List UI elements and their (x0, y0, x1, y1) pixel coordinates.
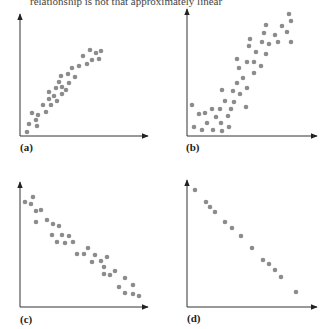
data-point (60, 233, 65, 238)
scatter-series-a (25, 48, 104, 135)
data-point (223, 220, 228, 225)
data-point (123, 291, 128, 296)
data-point (117, 285, 122, 290)
data-point (229, 107, 234, 112)
data-point (262, 31, 267, 36)
data-point (47, 97, 52, 102)
data-point (252, 71, 257, 76)
data-point (102, 272, 107, 277)
data-point (49, 103, 54, 108)
data-point (131, 292, 136, 297)
dots-layer (23, 12, 299, 299)
data-point (197, 112, 202, 117)
data-point (113, 269, 118, 274)
scatter-series-b (190, 12, 294, 134)
data-point (239, 234, 244, 239)
panel-axes-2 (20, 182, 148, 307)
data-point (93, 253, 98, 258)
data-point (45, 218, 50, 223)
data-point (287, 12, 292, 17)
data-point (241, 76, 246, 81)
data-point (77, 64, 82, 69)
scatter-series-c (23, 195, 142, 299)
data-point (205, 121, 210, 126)
data-point (280, 24, 285, 29)
data-point (108, 273, 113, 278)
data-point (34, 209, 39, 214)
data-point (211, 128, 216, 133)
data-point (279, 275, 284, 280)
data-point (192, 125, 197, 130)
data-point (31, 195, 36, 200)
data-point (218, 107, 223, 112)
data-point (248, 37, 253, 42)
data-point (71, 240, 76, 245)
scatter-figure (0, 0, 333, 329)
data-point (50, 233, 55, 238)
data-point (250, 246, 255, 251)
data-point (220, 88, 225, 93)
data-point (82, 252, 87, 257)
data-point (261, 258, 266, 263)
data-point (210, 107, 215, 112)
panel-label: (a) (20, 141, 33, 153)
axes-layer (20, 9, 317, 307)
data-point (99, 49, 104, 54)
data-point (203, 111, 208, 116)
data-point (252, 60, 257, 65)
data-point (97, 57, 102, 62)
data-point (67, 81, 72, 86)
data-point (219, 121, 224, 126)
data-point (230, 226, 235, 231)
data-point (245, 60, 250, 65)
data-point (267, 42, 272, 47)
data-point (214, 115, 219, 120)
data-point (244, 105, 249, 110)
data-point (285, 30, 290, 35)
data-point (81, 54, 86, 59)
data-point (238, 92, 243, 97)
data-point (235, 57, 240, 62)
data-point (131, 283, 136, 288)
data-point (245, 86, 250, 91)
data-point (264, 52, 269, 57)
data-point (64, 88, 69, 93)
data-point (264, 23, 269, 28)
data-point (200, 128, 205, 133)
data-point (208, 205, 213, 210)
data-point (51, 222, 56, 227)
data-point (289, 40, 294, 45)
data-point (66, 72, 71, 77)
data-point (226, 114, 231, 119)
data-point (94, 51, 99, 56)
data-point (29, 202, 34, 207)
data-point (88, 48, 93, 53)
data-point (235, 81, 240, 86)
data-point (39, 208, 44, 213)
data-point (231, 89, 236, 94)
panel-axes-0 (20, 14, 148, 136)
data-point (123, 276, 128, 281)
data-point (294, 290, 299, 295)
data-point (47, 90, 52, 95)
data-point (34, 220, 39, 225)
data-point (190, 103, 195, 108)
data-point (75, 252, 80, 257)
data-point (232, 100, 237, 105)
data-point (204, 200, 209, 205)
panel-label: (b) (186, 141, 199, 153)
data-point (85, 62, 90, 67)
scatter-series-d (193, 188, 299, 295)
panel-axes-3 (187, 180, 317, 307)
data-point (289, 19, 294, 24)
panel-label: (d) (187, 312, 200, 324)
data-point (41, 103, 46, 108)
data-point (57, 224, 62, 229)
data-point (63, 241, 68, 246)
data-point (52, 94, 57, 99)
data-point (25, 130, 30, 135)
data-point (27, 122, 32, 127)
data-point (227, 125, 232, 130)
data-point (137, 294, 142, 299)
data-point (57, 80, 62, 85)
